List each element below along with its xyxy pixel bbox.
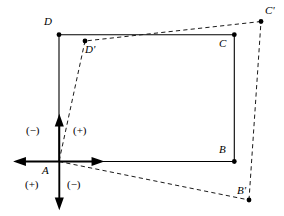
segment-dprime-a bbox=[59, 41, 85, 162]
sign-label-lower-left: (+) bbox=[25, 179, 39, 190]
segment-a-bprime bbox=[59, 162, 249, 201]
point-label-a: A bbox=[42, 165, 49, 176]
dot-d bbox=[57, 32, 62, 37]
dot-c-prime bbox=[259, 19, 264, 24]
horizontal-axis-right-arrowhead bbox=[93, 158, 102, 164]
sign-label-upper-left: (−) bbox=[26, 125, 40, 136]
horizontal-axis-left-arrowhead bbox=[16, 158, 25, 164]
geometry-diagram: D D' C C' B B' A (−) (+) (+) (−) bbox=[0, 0, 284, 216]
point-label-c: C bbox=[219, 38, 226, 49]
sign-label-upper-right: (+) bbox=[73, 125, 87, 136]
sign-label-lower-right: (−) bbox=[67, 179, 81, 190]
point-label-d: D bbox=[44, 16, 52, 27]
dot-b-prime bbox=[247, 198, 252, 203]
dot-b bbox=[232, 159, 237, 164]
vertical-axis-up-arrowhead bbox=[56, 117, 62, 126]
segment-bprime-cprime bbox=[249, 22, 261, 201]
point-label-b-prime: B' bbox=[237, 185, 246, 196]
point-label-d-prime: D' bbox=[85, 44, 95, 55]
point-label-b: B bbox=[219, 144, 226, 155]
point-label-c-prime: C' bbox=[265, 5, 275, 16]
vertical-axis-down-arrowhead bbox=[56, 199, 62, 208]
dot-c bbox=[232, 32, 237, 37]
